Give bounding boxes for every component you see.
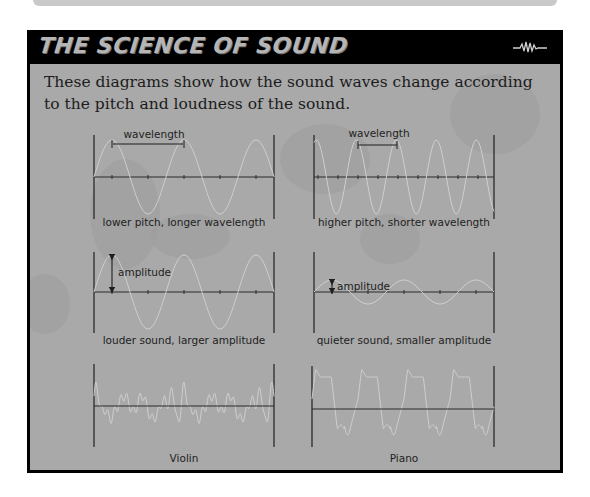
wavelength-label: wavelength xyxy=(123,128,184,140)
caption-louder-sound: louder sound, larger amplitude xyxy=(103,334,266,346)
diagram-louder-sound: amplitude louder sound, larger amplitude xyxy=(94,252,274,346)
caption-higher-pitch: higher pitch, shorter wavelength xyxy=(318,216,490,228)
diagram-lower-pitch: wavelength lower pitch, longer wavelengt… xyxy=(94,128,274,228)
panel-title: THE SCIENCE OF SOUND xyxy=(38,33,350,58)
diagram-higher-pitch: wavelength higher pitch, shorter wavelen… xyxy=(314,127,494,228)
caption-quieter-sound: quieter sound, smaller amplitude xyxy=(317,334,492,346)
top-strip xyxy=(33,0,557,6)
diagram-violin: Violin xyxy=(94,364,274,464)
caption-violin: Violin xyxy=(170,452,199,464)
diagram-piano: Piano xyxy=(312,366,494,464)
sound-wave-icon xyxy=(513,40,547,54)
piano-wave xyxy=(312,370,494,435)
panel-body: These diagrams show how the sound waves … xyxy=(30,64,560,470)
amplitude-label: amplitude xyxy=(337,280,390,292)
caption-piano: Piano xyxy=(390,452,419,464)
wavelength-label: wavelength xyxy=(348,127,409,139)
caption-lower-pitch: lower pitch, longer wavelength xyxy=(103,216,266,228)
violin-wave xyxy=(94,382,274,424)
diagram-quieter-sound: amplitude quieter sound, smaller amplitu… xyxy=(314,252,494,346)
amplitude-label: amplitude xyxy=(118,266,171,278)
science-of-sound-panel: THE SCIENCE OF SOUND These diagrams show… xyxy=(27,30,563,473)
sound-wave-diagrams: wavelength lower pitch, longer wavelengt… xyxy=(30,64,560,470)
panel-header: THE SCIENCE OF SOUND xyxy=(27,30,563,64)
